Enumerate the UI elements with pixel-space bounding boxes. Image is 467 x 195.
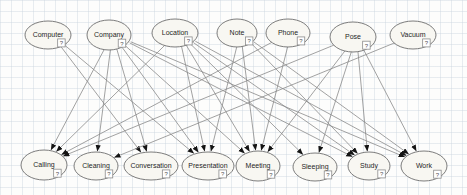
node-work[interactable]: Work? [401, 151, 447, 181]
edge-note-to-meeting [242, 46, 255, 150]
node-meeting[interactable]: Meeting? [236, 151, 280, 181]
edge-company-to-calling [51, 48, 105, 150]
edge-company-to-study [130, 43, 353, 157]
edge-location-to-sleeping [190, 44, 302, 155]
node-cleaning[interactable]: Cleaning? [74, 152, 118, 180]
node-sleeping[interactable]: Sleeping? [293, 153, 337, 181]
edge-location-to-presentation [181, 46, 204, 151]
nodes-layer: Computer?Company?Location?Note?Phone?Pos… [21, 19, 447, 181]
node-note[interactable]: Note? [217, 19, 257, 47]
node-calling[interactable]: Calling? [21, 150, 67, 180]
edge-location-to-meeting [186, 45, 249, 151]
edge-vacuum-to-cleaning [115, 42, 398, 157]
edge-pose-to-sleeping [319, 51, 352, 153]
edges-layer [51, 41, 416, 157]
node-company[interactable]: Company? [87, 20, 131, 50]
edge-company-to-presentation [122, 47, 198, 152]
edge-pose-to-study [358, 51, 367, 151]
edge-location-to-calling [57, 44, 167, 151]
node-study[interactable]: Study? [348, 152, 390, 180]
edge-phone-to-calling [62, 41, 275, 154]
diagram-canvas: Computer?Company?Location?Note?Phone?Pos… [0, 0, 467, 195]
edge-note-to-study [251, 44, 357, 154]
node-pose[interactable]: Pose? [330, 22, 376, 52]
edge-note-to-work [254, 42, 409, 154]
edge-pose-to-calling [63, 44, 336, 156]
edge-company-to-conversation [117, 49, 147, 152]
node-phone[interactable]: Phone? [266, 19, 310, 47]
edge-company-to-work [131, 42, 405, 157]
node-conversation[interactable]: Conversation? [124, 152, 178, 180]
edge-note-to-presentation [211, 46, 237, 151]
node-computer[interactable]: Computer? [25, 21, 71, 49]
node-vacuum[interactable]: Vacuum? [390, 21, 436, 49]
edge-pose-to-work [364, 50, 416, 151]
bayesian-network-graph: Computer?Company?Location?Note?Phone?Pos… [0, 0, 467, 195]
node-presentation[interactable]: Presentation? [182, 152, 234, 180]
edge-location-to-study [193, 43, 354, 156]
node-location[interactable]: Location? [152, 19, 198, 47]
